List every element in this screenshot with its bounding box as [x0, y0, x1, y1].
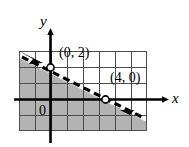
inequality-graph-figure: y x (0, 2) (4, 0) 0: [0, 0, 189, 147]
x-axis-label: x: [172, 91, 179, 106]
origin-label: 0: [39, 104, 46, 118]
y-axis-label: y: [40, 14, 47, 29]
point-marker-x-intercept: [102, 96, 109, 103]
point-label-y-intercept: (0, 2): [59, 46, 89, 60]
coordinate-plane-svg: [0, 0, 189, 147]
point-marker-y-intercept: [47, 64, 54, 71]
point-label-x-intercept: (4, 0): [110, 71, 140, 85]
